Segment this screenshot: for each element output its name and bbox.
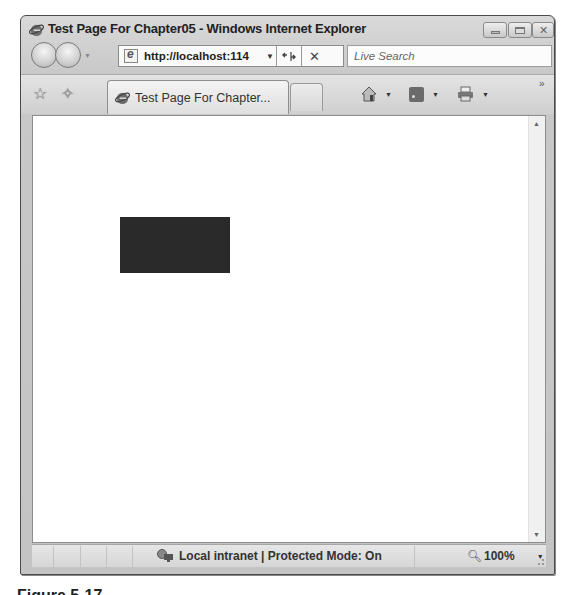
scroll-up-arrow-icon[interactable]: ▲ — [533, 120, 540, 127]
tab-test-page[interactable]: Test Page For Chapter... — [107, 80, 289, 114]
new-tab-button[interactable] — [290, 83, 323, 111]
recent-pages-dropdown[interactable]: ▼ — [84, 52, 91, 59]
window-title: Test Page For Chapter05 - Windows Intern… — [48, 21, 366, 36]
local-intranet-icon — [157, 549, 174, 563]
address-dropdown[interactable]: ▼ — [266, 52, 276, 61]
status-segment — [32, 546, 54, 567]
ie-logo-icon — [29, 22, 44, 37]
close-button[interactable]: ✕ — [532, 22, 554, 38]
status-segment — [107, 546, 133, 567]
search-box[interactable] — [347, 45, 552, 67]
ie-logo-icon — [115, 90, 130, 105]
favorites-center-star-icon[interactable]: ☆ — [33, 84, 47, 103]
status-segment — [54, 546, 81, 567]
minimize-icon — [491, 31, 500, 34]
address-bar[interactable]: http://localhost:114 ▼ ✕ — [118, 45, 344, 67]
stop-button[interactable]: ✕ — [302, 46, 326, 66]
scroll-down-arrow-icon[interactable]: ▼ — [533, 531, 540, 538]
feeds-dropdown-icon[interactable]: ▼ — [432, 91, 439, 98]
page-viewport: ▲ ▼ — [32, 115, 546, 543]
add-favorites-star-icon[interactable]: ✧ — [61, 84, 74, 103]
home-icon — [361, 86, 377, 102]
tab-bar: ☆ ✧ Test Page For Chapter... ▼ ▼ — [21, 74, 554, 114]
search-input[interactable] — [348, 46, 551, 66]
security-zone[interactable]: Local intranet | Protected Mode: On — [157, 546, 415, 567]
zoom-level: 100% — [484, 549, 515, 563]
navigation-bar: ▼ http://localhost:114 ▼ ✕ — [21, 40, 554, 72]
close-icon: ✕ — [539, 24, 548, 37]
tab-label: Test Page For Chapter... — [135, 91, 271, 105]
ie-window: Test Page For Chapter05 - Windows Intern… — [20, 15, 555, 575]
refresh-button[interactable] — [277, 46, 301, 66]
address-input[interactable]: http://localhost:114 — [144, 50, 262, 62]
figure-caption: Figure 5-17 — [17, 588, 102, 595]
printer-icon — [457, 86, 474, 102]
zone-status-text: Local intranet | Protected Mode: On — [179, 549, 382, 563]
status-bar: Local intranet | Protected Mode: On 🔍︎ 1… — [32, 544, 546, 567]
title-bar[interactable]: Test Page For Chapter05 - Windows Intern… — [21, 16, 554, 42]
print-button[interactable]: ▼ — [457, 84, 489, 104]
resize-grip[interactable] — [538, 559, 544, 565]
stop-icon: ✕ — [309, 49, 320, 64]
toolbar-overflow-chevron-icon[interactable]: » — [539, 78, 545, 89]
status-segment — [81, 546, 107, 567]
page-content — [33, 116, 528, 542]
rss-feed-icon — [409, 87, 424, 102]
dark-rectangle — [120, 217, 230, 273]
zoom-control[interactable]: 🔍︎ 100% — [467, 549, 515, 563]
vertical-scrollbar[interactable]: ▲ ▼ — [528, 116, 545, 542]
refresh-icon — [282, 50, 296, 62]
forward-button[interactable] — [55, 42, 81, 68]
maximize-button[interactable] — [508, 22, 532, 38]
zoom-magnifier-icon: 🔍︎ — [467, 549, 482, 563]
print-dropdown-icon[interactable]: ▼ — [482, 91, 489, 98]
home-button[interactable]: ▼ — [361, 84, 392, 104]
maximize-icon — [515, 27, 525, 34]
home-dropdown-icon[interactable]: ▼ — [385, 91, 392, 98]
feeds-button[interactable]: ▼ — [409, 84, 439, 104]
minimize-button[interactable] — [483, 22, 507, 38]
back-button[interactable] — [31, 42, 57, 68]
page-icon — [124, 49, 138, 63]
